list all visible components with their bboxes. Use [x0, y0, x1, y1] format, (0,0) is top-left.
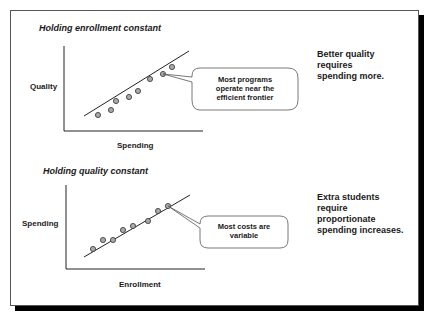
annotation-line: proportionate — [317, 214, 404, 225]
bottom-callout-text: Most costs are variable — [200, 222, 288, 240]
bottom-x-axis-label: Enrollment — [119, 280, 161, 289]
data-point — [120, 227, 125, 232]
callout-line: operate near the — [192, 84, 298, 93]
top-annotation: Better quality requires spending more. — [317, 49, 384, 82]
bottom-points — [90, 203, 170, 251]
bottom-frontier-line — [84, 195, 190, 257]
annotation-line: requires — [317, 60, 384, 71]
top-callout-text: Most programs operate near the efficient… — [192, 75, 298, 102]
callout-line: Most costs are — [200, 222, 288, 231]
annotation-line: Better quality — [317, 49, 384, 60]
callout-line: Most programs — [192, 75, 298, 84]
data-point — [145, 218, 150, 223]
data-point — [126, 94, 131, 99]
top-y-axis-label: Quality — [30, 82, 57, 91]
data-point — [110, 237, 115, 242]
data-point — [169, 64, 174, 69]
annotation-line: Extra students — [317, 192, 404, 203]
annotation-line: require — [317, 203, 404, 214]
callout-line: efficient frontier — [192, 93, 298, 102]
annotation-line: spending more. — [317, 71, 384, 82]
top-x-axis-label: Spending — [117, 141, 153, 150]
diagram-canvas — [0, 0, 431, 320]
callout-line: variable — [200, 231, 288, 240]
bottom-y-axis-label: Spending — [22, 219, 58, 228]
data-point — [95, 112, 100, 117]
data-point — [135, 88, 140, 93]
data-point — [113, 98, 118, 103]
data-point — [130, 223, 135, 228]
bottom-heading: Holding quality constant — [43, 166, 148, 176]
data-point — [147, 76, 152, 81]
top-frontier-line — [84, 51, 189, 116]
data-point — [90, 246, 95, 251]
data-point — [155, 208, 160, 213]
top-points — [95, 64, 174, 117]
bottom-annotation: Extra students require proportionate spe… — [317, 192, 404, 236]
data-point — [108, 107, 113, 112]
annotation-line: spending increases. — [317, 225, 404, 236]
top-heading: Holding enrollment constant — [39, 23, 161, 33]
data-point — [100, 237, 105, 242]
